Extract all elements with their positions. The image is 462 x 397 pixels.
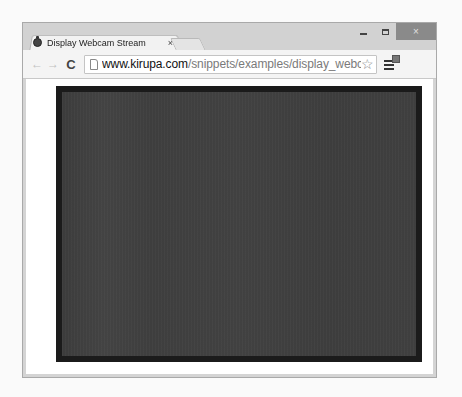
window-controls: × xyxy=(352,23,436,40)
back-button[interactable]: ← xyxy=(30,56,44,72)
tab-title: Display Webcam Stream xyxy=(47,38,164,48)
url-path: /snippets/examples/display_webcam_stream xyxy=(188,57,361,71)
maximize-icon xyxy=(382,29,389,35)
address-bar[interactable]: www.kirupa.com/snippets/examples/display… xyxy=(84,55,377,74)
kirupa-favicon-icon xyxy=(33,38,42,47)
reload-icon: C xyxy=(66,57,75,72)
page-icon xyxy=(90,59,98,70)
close-window-button[interactable]: × xyxy=(396,23,436,40)
hamburger-line xyxy=(384,64,394,66)
browser-window: Display Webcam Stream × × ← → C w xyxy=(22,22,437,378)
minimize-button[interactable] xyxy=(352,23,374,40)
forward-button[interactable]: → xyxy=(46,56,60,72)
page-viewport xyxy=(26,79,433,374)
back-arrow-icon: ← xyxy=(31,57,43,71)
tab-display-webcam-stream[interactable]: Display Webcam Stream × xyxy=(33,35,173,50)
url-host: www.kirupa.com xyxy=(102,57,188,71)
title-bar[interactable]: Display Webcam Stream × × xyxy=(23,23,436,50)
bookmark-star-icon[interactable]: ☆ xyxy=(361,57,374,71)
chrome-menu-button[interactable] xyxy=(384,58,396,70)
maximize-button[interactable] xyxy=(374,23,396,40)
minimize-icon xyxy=(360,33,367,35)
hamburger-line xyxy=(384,68,394,70)
webcam-video[interactable] xyxy=(56,86,422,362)
reload-button[interactable]: C xyxy=(64,56,78,72)
browser-toolbar: ← → C www.kirupa.com/snippets/examples/d… xyxy=(23,50,436,79)
video-stream-area xyxy=(62,92,416,356)
update-badge-icon xyxy=(392,55,400,63)
url-text[interactable]: www.kirupa.com/snippets/examples/display… xyxy=(102,57,361,71)
forward-arrow-icon: → xyxy=(47,57,59,71)
close-icon: × xyxy=(413,26,419,37)
